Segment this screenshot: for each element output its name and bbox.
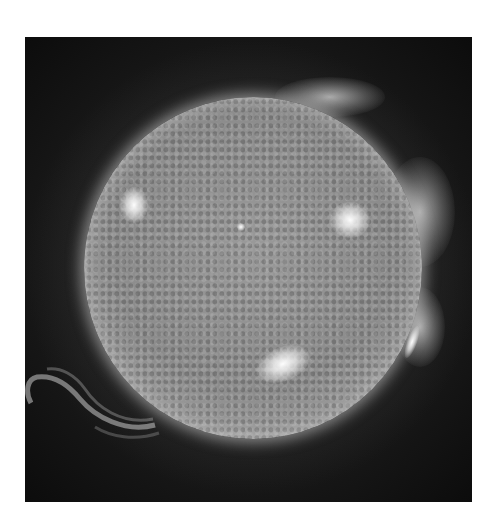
solar-image-frame [25, 37, 472, 502]
solar-disc [84, 97, 422, 439]
active-region-west-upper [330, 202, 370, 238]
bright-point [237, 223, 245, 231]
active-region-east [120, 187, 148, 223]
